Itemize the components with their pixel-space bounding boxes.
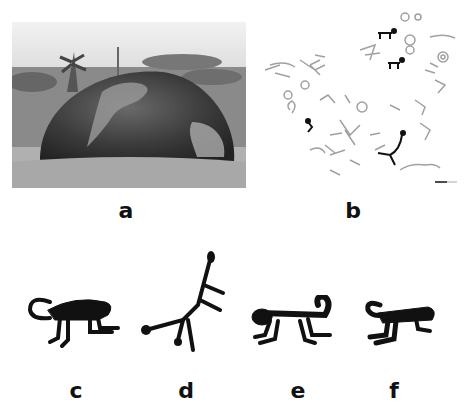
panel-label-a: a bbox=[106, 198, 146, 223]
panel-label-f: f bbox=[374, 378, 414, 403]
panel-label-c: c bbox=[56, 378, 96, 403]
petroglyph-tracing bbox=[250, 5, 467, 190]
monkey-petroglyph-d bbox=[138, 245, 238, 360]
monkey-petroglyph-f bbox=[358, 295, 438, 355]
panel-label-d: d bbox=[166, 378, 206, 403]
panel-label-e: e bbox=[278, 378, 318, 403]
boulder-photo bbox=[12, 22, 246, 188]
monkey-petroglyph-e bbox=[250, 295, 345, 355]
monkey-petroglyph-c bbox=[20, 290, 120, 350]
panel-label-b: b bbox=[333, 198, 373, 223]
